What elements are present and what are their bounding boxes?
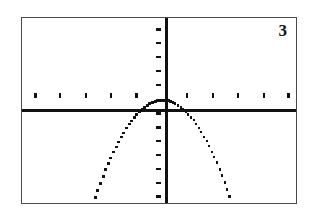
curve-point (193, 119, 196, 122)
curve-point (125, 127, 128, 130)
curve-point (151, 101, 154, 104)
curve-point (177, 104, 180, 107)
curve-point (203, 136, 206, 139)
curve-point (94, 196, 97, 199)
curve-point (122, 132, 125, 135)
curve-point (143, 106, 146, 109)
plot-area (22, 18, 296, 203)
curve-point (102, 175, 105, 178)
curve-point (148, 102, 151, 105)
curve-point (216, 161, 219, 164)
curve-point (182, 108, 185, 111)
curve-point (226, 188, 229, 191)
curve-point (104, 168, 107, 171)
curve-point (208, 145, 211, 148)
curve-point (211, 151, 214, 154)
curve-point (161, 99, 164, 102)
curve-point (190, 116, 193, 119)
curve-point (99, 182, 102, 185)
x-axis-ticks (35, 93, 288, 98)
curve-point (195, 123, 198, 126)
curve-point (206, 140, 209, 143)
curve-point (198, 127, 201, 130)
curve-point (219, 168, 222, 171)
curve-point (228, 195, 231, 198)
parabola-curve (94, 99, 231, 199)
curve-point (185, 110, 188, 113)
curve-point (169, 100, 172, 103)
curve-point (213, 156, 216, 159)
curve-point (117, 141, 120, 144)
curve-point (133, 116, 136, 119)
curve-point (115, 146, 118, 149)
curve-point (138, 110, 141, 113)
curve-point (135, 113, 138, 116)
y-axis-ticks (156, 29, 161, 196)
curve-point (164, 99, 167, 102)
curve-point (128, 123, 131, 126)
graph-canvas (22, 18, 296, 203)
curve-point (156, 99, 159, 102)
curve-point (187, 113, 190, 116)
curve-point (200, 131, 203, 134)
curve-point (96, 189, 99, 192)
curve-point (174, 102, 177, 105)
curve-point (130, 120, 133, 123)
curve-point (112, 151, 115, 154)
curve-point (109, 157, 112, 160)
curve-point (221, 174, 224, 177)
screenshot-root: 3 (0, 0, 309, 220)
curve-point (224, 181, 227, 184)
curve-point (120, 136, 123, 139)
curve-point (107, 162, 110, 165)
calculator-screen-frame: 3 (21, 17, 297, 204)
